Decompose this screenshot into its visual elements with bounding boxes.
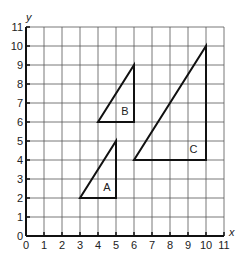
triangle-label-b: B bbox=[121, 105, 128, 117]
x-tick-label: 8 bbox=[167, 239, 173, 251]
y-tick-label: 1 bbox=[17, 211, 23, 223]
x-tick-label: 10 bbox=[200, 239, 212, 251]
x-axis-label: x bbox=[228, 226, 235, 238]
y-tick-label: 3 bbox=[17, 173, 23, 185]
coordinate-grid-diagram: 01234567891011 01234567891011 x y ABC bbox=[0, 0, 246, 267]
triangle-label-a: A bbox=[103, 181, 111, 193]
x-tick-labels: 01234567891011 bbox=[23, 239, 230, 251]
x-tick-label: 0 bbox=[23, 239, 29, 251]
y-tick-label: 9 bbox=[17, 59, 23, 71]
y-tick-label: 10 bbox=[11, 40, 23, 52]
y-tick-label: 8 bbox=[17, 78, 23, 90]
y-axis-label: y bbox=[25, 11, 33, 23]
y-tick-label: 6 bbox=[17, 116, 23, 128]
y-tick-label: 2 bbox=[17, 192, 23, 204]
x-tick-label: 4 bbox=[95, 239, 101, 251]
x-tick-label: 2 bbox=[59, 239, 65, 251]
x-tick-label: 7 bbox=[149, 239, 155, 251]
x-tick-label: 9 bbox=[185, 239, 191, 251]
y-tick-label: 0 bbox=[17, 230, 23, 242]
x-tick-label: 5 bbox=[113, 239, 119, 251]
y-tick-label: 5 bbox=[17, 135, 23, 147]
triangle-label-c: C bbox=[189, 143, 197, 155]
y-tick-labels: 01234567891011 bbox=[11, 21, 23, 242]
y-tick-label: 4 bbox=[17, 154, 23, 166]
axes bbox=[26, 27, 224, 236]
x-tick-label: 1 bbox=[41, 239, 47, 251]
y-tick-label: 7 bbox=[17, 97, 23, 109]
x-tick-label: 6 bbox=[131, 239, 137, 251]
y-tick-label: 11 bbox=[12, 21, 23, 33]
x-tick-label: 11 bbox=[218, 239, 229, 251]
x-tick-label: 3 bbox=[77, 239, 83, 251]
grid-lines bbox=[26, 27, 224, 236]
